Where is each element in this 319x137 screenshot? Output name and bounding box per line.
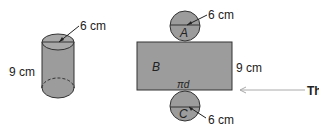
arrow-caption: Th [307,85,319,97]
cylinder-radius-label: 6 cm [80,20,106,32]
circle-a-label: A [180,27,188,39]
cylinder-figure [42,26,79,98]
rectangle-b-label: B [152,61,160,73]
cylinder-height-label: 9 cm [9,66,35,78]
circle-a-radius-label: 6 cm [208,9,234,21]
net-bottom-circle [170,91,206,121]
rectangle-width-label: πd [177,80,189,90]
rectangle-height-label: 9 cm [236,62,262,74]
circle-c-radius-label: 6 cm [208,114,234,126]
net-top-circle [170,11,207,41]
pointer-arrow [240,87,305,93]
circle-c-label: C [179,108,188,120]
